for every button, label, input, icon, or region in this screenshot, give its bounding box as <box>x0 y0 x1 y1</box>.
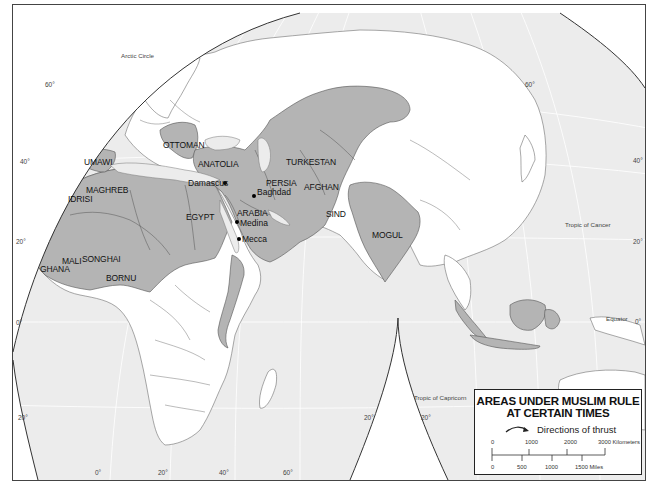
svg-text:40°: 40° <box>219 469 229 476</box>
label-sind: SIND <box>326 209 346 219</box>
svg-text:0°: 0° <box>635 318 642 325</box>
label-damascus: Damascus <box>188 178 228 188</box>
label-mecca: Mecca <box>242 234 267 244</box>
label-anatolia: ANATOLIA <box>198 159 239 169</box>
svg-text:500: 500 <box>517 464 527 470</box>
label-ottoman: OTTOMAN <box>163 140 205 150</box>
label-arctic-circle: Arctic Circle <box>121 52 155 59</box>
legend-title-line2: AT CERTAIN TIMES <box>475 407 641 419</box>
label-medina: Medina <box>240 218 268 228</box>
label-songhai: SONGHAI <box>82 254 121 264</box>
label-bornu: BORNU <box>106 273 136 283</box>
svg-text:0°: 0° <box>95 469 102 476</box>
legend-box: AREAS UNDER MUSLIM RULE AT CERTAIN TIMES… <box>474 389 642 475</box>
label-egypt: EGYPT <box>186 212 214 222</box>
legend-thrust-label: Directions of thrust <box>537 424 616 435</box>
label-idrisi: IDRISI <box>68 194 92 204</box>
svg-text:20°: 20° <box>364 414 374 421</box>
svg-text:20°: 20° <box>158 469 168 476</box>
legend-thrust-row: Directions of thrust <box>505 423 616 435</box>
svg-text:60°: 60° <box>283 469 293 476</box>
svg-text:2000: 2000 <box>564 439 577 445</box>
svg-text:0°: 0° <box>16 319 23 326</box>
label-tropic-of-capricorn: Tropic of Capricorn <box>414 394 467 401</box>
svg-text:3000 Kilometers: 3000 Kilometers <box>598 439 640 445</box>
svg-text:20°: 20° <box>16 238 26 245</box>
svg-text:1500 Miles: 1500 Miles <box>575 464 603 470</box>
city-dot-mecca <box>237 237 241 241</box>
label-umawi: UMAWI <box>84 157 112 167</box>
label-arabia: ARABIA <box>237 208 268 218</box>
city-dot-baghdad <box>252 194 256 198</box>
label-baghdad: Baghdad <box>257 187 291 197</box>
legend-title-line1: AREAS UNDER MUSLIM RULE <box>475 395 641 407</box>
curved-arrow-icon <box>505 424 531 434</box>
svg-text:0: 0 <box>491 464 494 470</box>
svg-text:40°: 40° <box>20 158 30 165</box>
city-dot-medina <box>235 220 239 224</box>
svg-text:20°: 20° <box>633 238 643 245</box>
svg-text:40°: 40° <box>633 157 643 164</box>
label-ghana: GHANA <box>40 264 70 274</box>
svg-text:1000: 1000 <box>525 439 538 445</box>
svg-text:1000: 1000 <box>545 464 558 470</box>
svg-text:20°: 20° <box>421 414 431 421</box>
svg-text:20°: 20° <box>18 414 28 421</box>
label-turkestan: TURKESTAN <box>286 157 336 167</box>
label-equator: Equator <box>606 315 628 322</box>
svg-text:60°: 60° <box>45 81 55 88</box>
scale-bar: 0 1000 2000 3000 Kilometers 0 500 1000 1… <box>475 438 643 474</box>
label-afghan: AFGHAN <box>304 182 339 192</box>
label-tropic-of-cancer: Tropic of Cancer <box>565 221 611 228</box>
svg-text:60°: 60° <box>525 81 535 88</box>
svg-text:0: 0 <box>491 439 494 445</box>
label-mogul: MOGUL <box>372 230 403 240</box>
